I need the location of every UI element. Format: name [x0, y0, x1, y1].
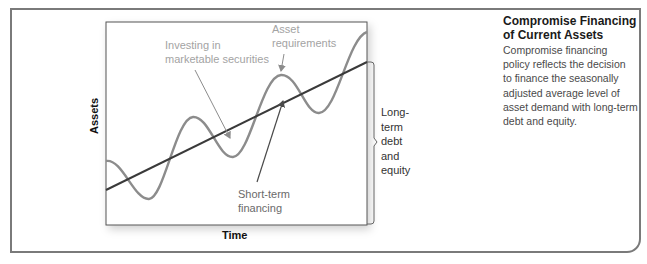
long-term-label: Long- term debt and equity: [381, 105, 410, 178]
caption-body-line: policy reflects the decision: [503, 57, 638, 71]
long-term-line2: term: [381, 120, 410, 135]
asset-requirements-label: Asset requirements: [272, 22, 336, 50]
investing-label: Investing in marketable securities: [165, 38, 269, 66]
caption-title-line2: of Current Assets: [503, 28, 638, 42]
investing-label-line1: Investing in: [165, 38, 269, 52]
asset-requirements-line1: Asset: [272, 22, 336, 36]
caption-body-line: Compromise financing: [503, 43, 638, 57]
short-term-line2: financing: [238, 201, 290, 215]
caption-sidebar: Compromise Financing of Current Assets C…: [503, 14, 638, 128]
long-term-line4: and: [381, 149, 410, 164]
long-term-line1: Long-: [381, 105, 410, 120]
short-term-label: Short-term financing: [238, 187, 290, 215]
long-term-line3: debt: [381, 134, 410, 149]
caption-title: Compromise Financing of Current Assets: [503, 14, 638, 42]
x-axis-label: Time: [222, 229, 247, 241]
caption-body-line: asset demand with long-term: [503, 100, 638, 114]
long-term-line5: equity: [381, 163, 410, 178]
y-axis-label: Assets: [88, 86, 100, 146]
asset-requirements-line2: requirements: [272, 36, 336, 50]
caption-title-line1: Compromise Financing: [503, 14, 638, 28]
caption-body: Compromise financing policy reflects the…: [503, 43, 638, 128]
short-term-line1: Short-term: [238, 187, 290, 201]
long-term-bracket: [367, 62, 377, 224]
investing-label-line2: marketable securities: [165, 52, 269, 66]
caption-body-line: adjusted average level of: [503, 86, 638, 100]
caption-body-line: to finance the seasonally: [503, 71, 638, 85]
caption-body-line: debt and equity.: [503, 114, 638, 128]
